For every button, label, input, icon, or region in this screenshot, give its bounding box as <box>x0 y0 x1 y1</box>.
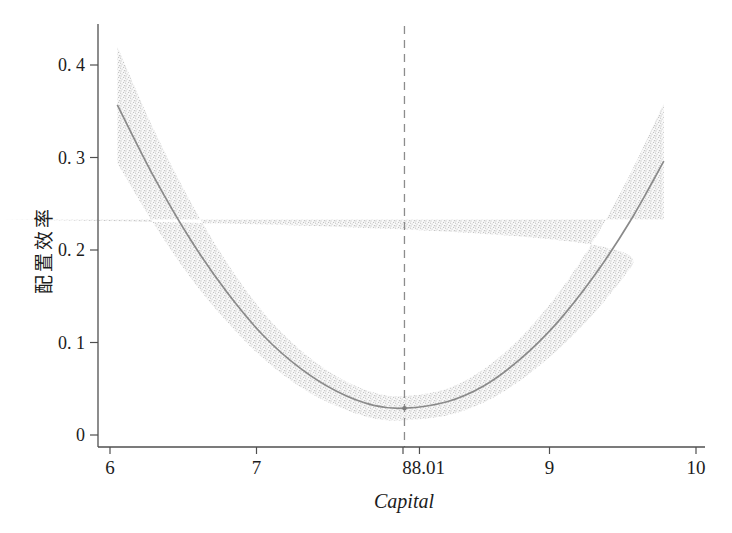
chart-figure: 00. 10. 20. 30. 46789108.01 配置效率 Capital <box>0 0 732 533</box>
y-tick-label: 0. 4 <box>58 55 85 75</box>
x-tick-label: 8 <box>402 457 412 478</box>
confidence-band <box>1 47 664 421</box>
x-tick-label: 7 <box>252 457 262 478</box>
y-tick-label: 0. 3 <box>58 148 85 168</box>
x-tick-label: 6 <box>105 457 115 478</box>
y-axis-title: 配置效率 <box>29 206 56 294</box>
turning-point-marker <box>402 406 406 410</box>
x-axis-title: Capital <box>374 490 434 513</box>
chart-canvas: 00. 10. 20. 30. 46789108.01 <box>0 0 732 533</box>
x-tick-label: 10 <box>687 457 706 478</box>
turning-point-tick-label: 8.01 <box>412 457 445 478</box>
y-tick-label: 0. 2 <box>58 240 85 260</box>
y-tick-label: 0 <box>76 425 85 445</box>
x-tick-label: 9 <box>545 457 555 478</box>
y-tick-label: 0. 1 <box>58 333 85 353</box>
